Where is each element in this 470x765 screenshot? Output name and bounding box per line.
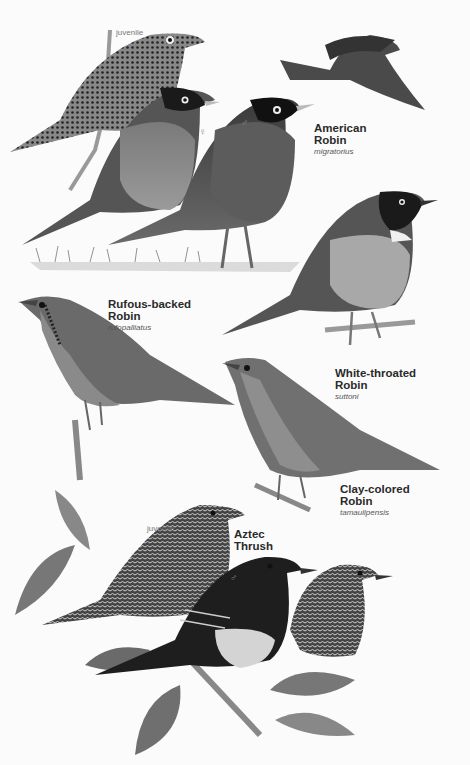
common-name: American <box>314 122 366 134</box>
scientific-name: migratorius <box>314 146 366 157</box>
aztec-thrush-label: Aztec Thrush <box>234 528 273 552</box>
scientific-name: suttoni <box>335 391 416 402</box>
scientific-name: rufopalliatus <box>108 322 191 333</box>
rufous-backed-robin-label: Rufous-backed Robin rufopalliatus <box>108 298 191 333</box>
common-name: Thrush <box>234 540 273 552</box>
common-name: Aztec <box>234 528 273 540</box>
white-throated-robin-label: White-throated Robin suttoni <box>335 367 416 402</box>
common-name: White-throated <box>335 367 416 379</box>
field-guide-plate: American Robin migratorius juvenile ♀ ♂ … <box>0 0 470 765</box>
aztec-thrush-illustration <box>15 490 393 755</box>
common-name: Robin <box>314 134 366 146</box>
common-name: Robin <box>340 495 410 507</box>
common-name: Rufous-backed <box>108 298 191 310</box>
male-symbol: ♂ <box>241 117 249 128</box>
american-robin-label: American Robin migratorius <box>314 122 366 157</box>
common-name: Robin <box>108 310 191 322</box>
clay-colored-robin-label: Clay-colored Robin tamaulipensis <box>340 483 410 518</box>
juvenile-tag: juvenile <box>116 28 143 37</box>
common-name: Robin <box>335 379 416 391</box>
female-symbol: ♀ <box>317 581 325 592</box>
female-symbol: ♀ <box>199 126 207 137</box>
common-name: Clay-colored <box>340 483 410 495</box>
juvenile-tag: juvenile <box>147 524 174 533</box>
male-symbol: ♂ <box>230 572 238 583</box>
scientific-name: tamaulipensis <box>340 507 410 518</box>
